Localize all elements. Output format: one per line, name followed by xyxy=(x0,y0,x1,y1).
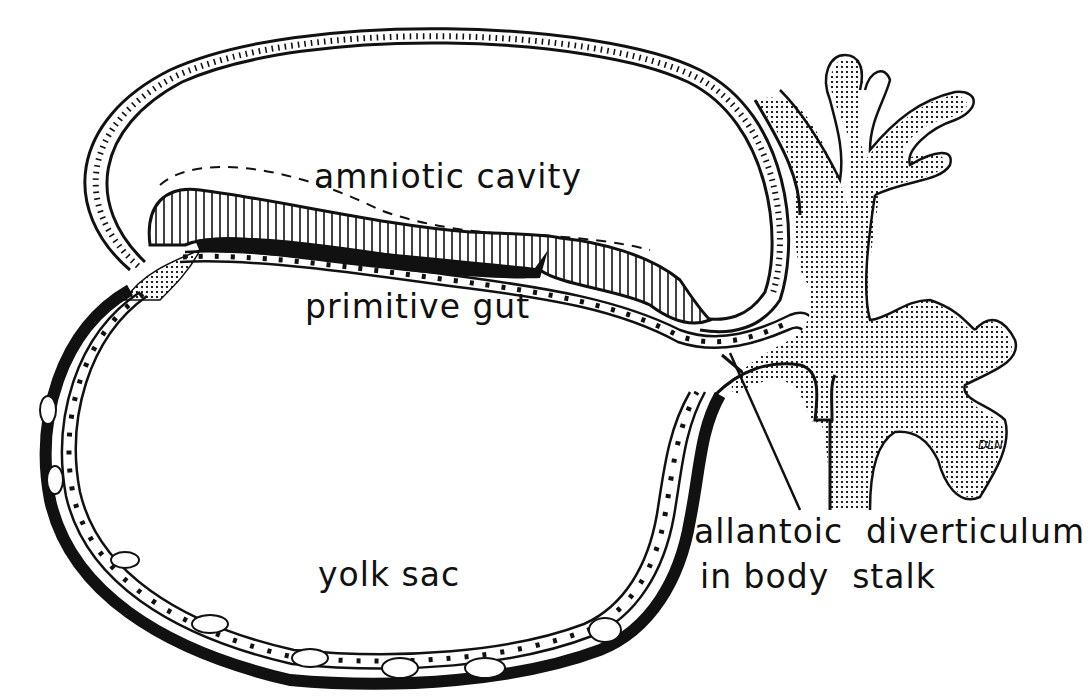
yolk-sac-vacuoles xyxy=(40,396,621,678)
label-amniotic-cavity: amniotic cavity xyxy=(314,160,582,193)
label-in-body-stalk: in body stalk xyxy=(700,560,936,593)
label-allantoic-diverticulum: allantoic diverticulum xyxy=(694,515,1085,548)
label-primitive-gut: primitive gut xyxy=(305,290,530,323)
label-yolk-sac: yolk sac xyxy=(318,558,460,591)
artist-signature: DLN xyxy=(978,438,1003,452)
stippled-mesoderm-left xyxy=(125,250,200,300)
